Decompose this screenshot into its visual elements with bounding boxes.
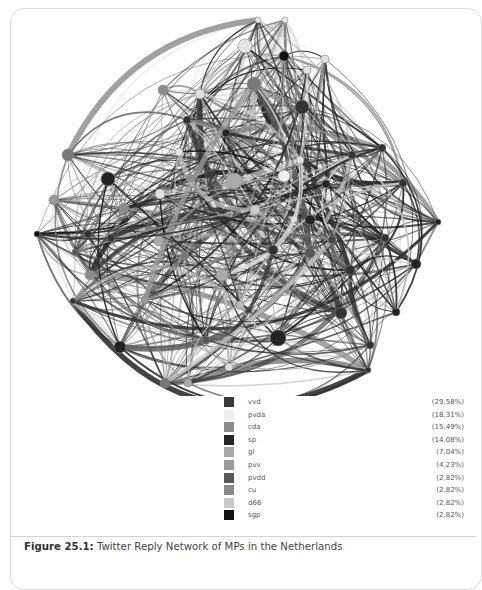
legend-percentage: (4,23%) xyxy=(436,459,464,471)
legend-swatch xyxy=(224,397,234,407)
network-node xyxy=(321,55,329,63)
caption-divider xyxy=(10,536,476,537)
network-node xyxy=(250,205,260,215)
network-node xyxy=(141,296,149,304)
legend-label: pvv xyxy=(248,459,261,471)
network-node xyxy=(399,179,407,187)
legend-label: vvd xyxy=(248,396,261,408)
legend-percentage: (14,08%) xyxy=(432,434,464,446)
network-node xyxy=(183,116,191,124)
network-node xyxy=(107,234,115,242)
network-node xyxy=(255,17,261,23)
legend-label: pvdd xyxy=(248,472,265,484)
network-node xyxy=(278,170,290,182)
network-node xyxy=(155,189,165,199)
figure-label: Figure 25.1: xyxy=(24,541,94,552)
network-node xyxy=(365,367,371,373)
figure-title: Twitter Reply Network of MPs in the Neth… xyxy=(94,541,343,552)
network-node xyxy=(70,298,76,304)
network-node xyxy=(72,249,78,255)
legend-label: cu xyxy=(248,484,256,496)
legend-percentage: (2,82%) xyxy=(436,472,464,484)
legend-item-vvd: vvd(29,58%) xyxy=(224,396,464,409)
legend-item-pvda: pvda(18,31%) xyxy=(224,409,464,422)
network-node xyxy=(195,89,205,99)
legend-item-cda: cda(15,49%) xyxy=(224,421,464,434)
legend-label: cda xyxy=(248,421,261,433)
legend-item-pvv: pvv(4,23%) xyxy=(224,459,464,472)
legend-swatch xyxy=(224,498,234,508)
network-node xyxy=(216,269,228,281)
network-node xyxy=(366,341,374,349)
network-node xyxy=(348,151,356,159)
network-node xyxy=(303,66,311,74)
legend-item-sp: sp(14,08%) xyxy=(224,434,464,447)
network-node xyxy=(268,245,278,255)
legend-swatch xyxy=(224,447,234,457)
network-node xyxy=(296,156,304,164)
network-node xyxy=(392,308,400,316)
network-node xyxy=(305,215,315,225)
network-node xyxy=(345,265,355,275)
legend-label: sp xyxy=(248,434,256,446)
network-node xyxy=(160,378,170,388)
figure-caption: Figure 25.1: Twitter Reply Network of MP… xyxy=(24,541,342,552)
network-node xyxy=(119,203,129,213)
legend-swatch xyxy=(224,485,234,495)
network-node xyxy=(181,251,189,259)
legend-label: pvda xyxy=(248,409,265,421)
legend-swatch xyxy=(224,422,234,432)
network-node xyxy=(378,144,386,152)
network-node xyxy=(186,174,194,182)
legend-item-d66: d66(2,82%) xyxy=(224,497,464,510)
network-node xyxy=(279,51,289,61)
legend-swatch xyxy=(224,435,234,445)
network-node xyxy=(49,195,59,205)
legend-swatch xyxy=(224,410,234,420)
network-node xyxy=(411,259,421,269)
network-node xyxy=(114,341,126,353)
network-node xyxy=(154,236,164,246)
network-node xyxy=(175,148,183,156)
network-node xyxy=(238,39,252,53)
network-edges xyxy=(37,20,438,396)
network-node xyxy=(282,17,288,23)
legend-swatch xyxy=(224,510,234,520)
legend-item-sgp: sgp(2,82%) xyxy=(224,509,464,522)
legend-swatch xyxy=(224,473,234,483)
network-node xyxy=(184,379,192,387)
network-node xyxy=(222,129,230,137)
legend-percentage: (2,82%) xyxy=(436,509,464,521)
network-node xyxy=(435,219,441,225)
network-node xyxy=(85,270,95,280)
network-node xyxy=(84,230,92,238)
network-node xyxy=(322,180,330,188)
network-graph xyxy=(0,0,476,396)
network-node xyxy=(226,173,242,189)
legend-item-cu: cu(2,82%) xyxy=(224,484,464,497)
legend-percentage: (29,58%) xyxy=(432,396,464,408)
network-node xyxy=(62,149,74,161)
legend-label: gl xyxy=(248,446,254,458)
legend-percentage: (2,82%) xyxy=(436,497,464,509)
network-node xyxy=(158,85,168,95)
legend-item-pvdd: pvdd(2,82%) xyxy=(224,472,464,485)
network-node xyxy=(101,172,115,186)
network-node xyxy=(295,100,309,114)
network-node xyxy=(305,248,315,258)
party-legend: vvd(29,58%)pvda(18,31%)cda(15,49%)sp(14,… xyxy=(224,396,464,522)
legend-percentage: (18,31%) xyxy=(432,409,464,421)
network-node xyxy=(225,363,233,371)
legend-swatch xyxy=(224,460,234,470)
network-node xyxy=(270,330,286,346)
network-node xyxy=(328,236,336,244)
network-node xyxy=(247,77,261,91)
legend-item-gl: gl(7,04%) xyxy=(224,446,464,459)
legend-percentage: (15,49%) xyxy=(432,421,464,433)
network-node xyxy=(236,301,244,309)
network-node xyxy=(202,336,210,344)
network-node xyxy=(34,231,40,237)
legend-percentage: (7,04%) xyxy=(436,446,464,458)
legend-percentage: (2,82%) xyxy=(436,484,464,496)
legend-label: d66 xyxy=(248,497,261,509)
